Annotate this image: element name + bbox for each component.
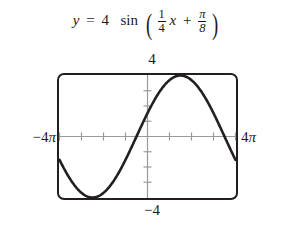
x-axis-min-pi-symbol: π bbox=[48, 129, 56, 145]
equation-phase-denominator: 8 bbox=[198, 21, 206, 36]
equation-function-name: sin bbox=[120, 12, 138, 28]
x-axis-min-number: −4 bbox=[33, 129, 49, 145]
y-axis-max-label: 4 bbox=[122, 52, 182, 67]
equation-close-paren: ) bbox=[212, 13, 218, 35]
graph-plot bbox=[57, 73, 238, 200]
equation-plus-sign: + bbox=[183, 12, 191, 28]
equation-open-paren: ( bbox=[146, 13, 152, 35]
figure-container: y = 4 sin ( 1 4 x + π 8 ) 4 −4 −4π bbox=[0, 0, 293, 227]
equation-phase-numerator: π bbox=[198, 8, 206, 22]
equation-coefficient-fraction: 1 4 bbox=[158, 8, 166, 36]
equation-variable: x bbox=[170, 12, 177, 28]
x-axis-min-label: −4π bbox=[8, 130, 56, 145]
x-axis-max-number: 4 bbox=[241, 129, 249, 145]
equation-coefficient-numerator: 1 bbox=[158, 8, 166, 22]
equation-phase-fraction: π 8 bbox=[198, 8, 206, 36]
equation-caption: y = 4 sin ( 1 4 x + π 8 ) bbox=[0, 8, 293, 36]
equation-equals-sign: = bbox=[86, 12, 94, 28]
x-axis-max-pi-symbol: π bbox=[249, 129, 257, 145]
x-axis-max-label: 4π bbox=[241, 130, 289, 145]
equation-coefficient-denominator: 4 bbox=[158, 21, 166, 36]
equation-amplitude: 4 bbox=[101, 12, 109, 28]
equation-lhs-variable: y bbox=[73, 12, 80, 28]
y-axis-min-label: −4 bbox=[122, 203, 182, 218]
